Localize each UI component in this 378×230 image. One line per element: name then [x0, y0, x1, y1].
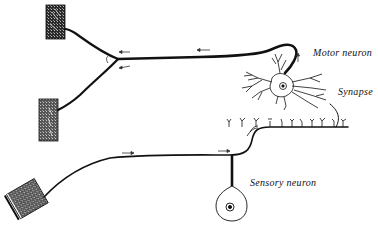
direction-arrows-sensory — [122, 150, 230, 155]
muscle-upper — [46, 5, 65, 39]
motor-neuron-cell-body — [242, 54, 326, 110]
sensory-neuron-cell-body — [216, 186, 247, 221]
motor-axon — [58, 29, 296, 110]
reflex-arc-diagram — [0, 0, 378, 230]
muscle-middle — [39, 99, 58, 141]
label-synapse: Synapse — [338, 86, 373, 97]
label-motor-neuron: Motor neuron — [313, 47, 372, 58]
label-sensory-neuron: Sensory neuron — [250, 177, 316, 188]
receptor-skin — [5, 179, 48, 220]
